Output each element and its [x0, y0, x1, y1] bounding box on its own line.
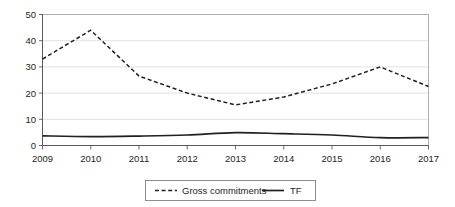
- x-axis-tick-label: 2016: [370, 153, 391, 164]
- y-axis-tick-label: 10: [25, 114, 36, 125]
- y-axis-tick-label: 40: [25, 35, 36, 46]
- x-axis-tick-label: 2010: [80, 153, 101, 164]
- chart-legend: Gross commitments TF: [146, 181, 316, 201]
- x-axis-tick-label: 2017: [418, 153, 439, 164]
- x-axis-tick-label: 2014: [273, 153, 294, 164]
- x-axis-tick-label: 2015: [321, 153, 342, 164]
- x-axis-tick-label: 2012: [177, 153, 198, 164]
- legend-label-tf: TF: [290, 185, 302, 196]
- x-axis-tick-label: 2011: [129, 153, 149, 164]
- x-axis-tick-labels: 200920102011201220132014201520162017: [32, 153, 439, 164]
- y-axis-tick-label: 30: [25, 61, 36, 72]
- chart-background: [0, 0, 455, 207]
- y-axis-tick-label: 0: [31, 140, 36, 151]
- x-axis-tick-label: 2009: [32, 153, 53, 164]
- y-axis-tick-label: 50: [25, 9, 36, 20]
- chart-figure: 01020304050 2009201020112012201320142015…: [0, 0, 455, 207]
- legend-label-gross-commitments: Gross commitments: [182, 185, 267, 196]
- y-axis-tick-label: 20: [25, 88, 36, 99]
- line-chart: 01020304050 2009201020112012201320142015…: [0, 0, 455, 207]
- x-axis-tick-label: 2013: [225, 153, 246, 164]
